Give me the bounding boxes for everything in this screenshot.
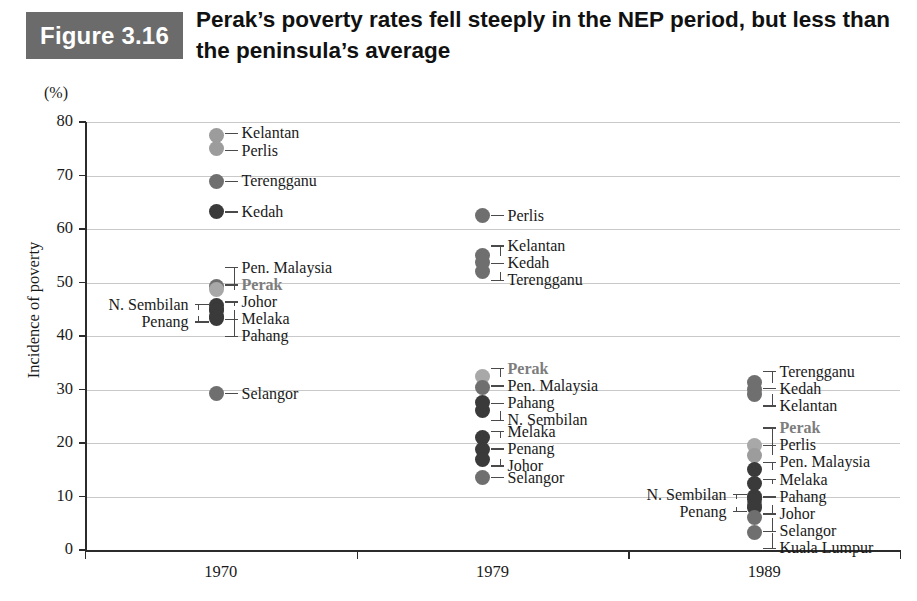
leader-line [763, 462, 776, 463]
leader-line [491, 477, 504, 478]
leader-line [772, 428, 773, 445]
point-label-perlis: Perlis [242, 142, 278, 159]
leader-line [500, 246, 501, 256]
leader-line [225, 284, 238, 285]
point-label-n-sembilan: N. Sembilan [0, 486, 727, 503]
point-label-perak: Perak [780, 419, 821, 436]
point-label-perak: Perak [242, 276, 283, 293]
point-label-selangor: Selangor [508, 469, 565, 486]
data-point-pen-malaysia [475, 380, 490, 395]
data-point-perlis [747, 448, 762, 463]
gridline [85, 122, 900, 123]
leader-line [225, 267, 238, 268]
y-axis-tick-label: 20 [29, 432, 73, 452]
leader-line [491, 245, 504, 246]
data-point-selangor [209, 386, 224, 401]
point-label-pen-malaysia: Pen. Malaysia [780, 453, 871, 470]
leader-line [772, 394, 773, 406]
figure-root: Figure 3.16 Perak’s poverty rates fell s… [0, 0, 917, 601]
point-label-johor: Johor [242, 293, 278, 310]
leader-line [772, 372, 773, 383]
data-point-kelantan [747, 387, 762, 402]
point-label-melaka: Melaka [242, 310, 290, 327]
leader-line [500, 432, 501, 438]
point-label-pahang: Pahang [508, 394, 555, 411]
leader-line [491, 280, 504, 281]
point-label-penang: Penang [508, 440, 555, 457]
point-label-kuala-lumpur: Kuala Lumpur [780, 539, 874, 556]
y-axis-tick-label: 60 [29, 218, 73, 238]
leader-line [225, 150, 238, 151]
leader-line [772, 518, 773, 531]
point-label-pahang: Pahang [242, 327, 289, 344]
x-axis-tick-label: 1989 [628, 562, 900, 582]
point-label-kedah: Kedah [242, 203, 284, 220]
leader-line [763, 388, 776, 389]
point-label-pahang: Pahang [780, 488, 827, 505]
data-point-kedah [209, 204, 224, 219]
leader-line [225, 301, 238, 302]
leader-line [733, 494, 747, 495]
point-label-kelantan: Kelantan [780, 397, 838, 414]
x-axis-line [85, 550, 900, 552]
point-label-penang: Penang [0, 313, 189, 330]
leader-line [198, 305, 199, 311]
point-label-selangor: Selangor [780, 522, 837, 539]
leader-line [225, 211, 238, 212]
point-label-perlis: Perlis [508, 207, 544, 224]
gridline [85, 176, 900, 177]
gridline [85, 336, 900, 337]
leader-line [225, 133, 238, 134]
leader-line [234, 319, 235, 337]
data-point-kuala-lumpur [747, 525, 762, 540]
leader-line [491, 368, 504, 369]
leader-line [763, 531, 776, 532]
data-point-penang [209, 309, 224, 324]
gridline [85, 229, 900, 230]
point-label-johor: Johor [780, 505, 816, 522]
x-axis-tick [85, 550, 86, 559]
x-axis-tick-label: 1970 [85, 562, 357, 582]
leader-line [234, 285, 235, 290]
point-label-perlis: Perlis [780, 436, 816, 453]
leader-line [195, 321, 209, 322]
y-axis-tick-label: 70 [29, 165, 73, 185]
gridline [85, 443, 900, 444]
data-point-perak [209, 282, 224, 297]
leader-line [763, 548, 776, 549]
data-point-perlis [209, 141, 224, 156]
leader-line [225, 319, 238, 320]
point-label-melaka: Melaka [508, 423, 556, 440]
leader-line [491, 403, 504, 404]
point-label-terengganu: Terengganu [780, 363, 855, 380]
leader-line [225, 336, 238, 337]
leader-line [500, 369, 501, 377]
leader-line [491, 215, 504, 216]
leader-line [225, 181, 238, 182]
point-label-perak: Perak [508, 360, 549, 377]
leader-line [733, 511, 747, 512]
leader-line [772, 462, 773, 469]
data-point-selangor [747, 510, 762, 525]
point-label-terengganu: Terengganu [508, 271, 583, 288]
y-axis-tick-label: 30 [29, 379, 73, 399]
point-label-penang: Penang [0, 503, 727, 520]
leader-line [491, 465, 504, 466]
x-axis-tick-label: 1979 [357, 562, 629, 582]
leader-line [772, 445, 773, 455]
point-label-kedah: Kedah [508, 254, 550, 271]
leader-line [195, 304, 209, 305]
leader-line [763, 513, 776, 514]
point-label-kedah: Kedah [780, 380, 822, 397]
point-label-selangor: Selangor [242, 385, 299, 402]
leader-line [491, 385, 504, 386]
gridline [85, 283, 900, 284]
leader-line [491, 420, 504, 421]
point-label-terengganu: Terengganu [242, 172, 317, 189]
leader-line [491, 431, 504, 432]
point-label-melaka: Melaka [780, 471, 828, 488]
data-point-perlis [475, 208, 490, 223]
leader-line [491, 263, 504, 264]
leader-line [763, 479, 776, 480]
leader-line [763, 405, 776, 406]
